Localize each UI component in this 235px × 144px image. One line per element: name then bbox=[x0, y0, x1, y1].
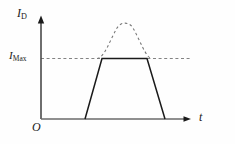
i-max-tick-label: IMax bbox=[9, 50, 27, 61]
origin-label: O bbox=[32, 121, 41, 133]
y-axis-label: ID bbox=[17, 7, 27, 19]
y-axis-arrowhead bbox=[38, 16, 44, 24]
i-max-subscript: Max bbox=[13, 54, 27, 63]
figure-container: ID IMax t O bbox=[0, 0, 235, 144]
y-axis-subscript: D bbox=[21, 12, 27, 21]
unclipped-sine-peak bbox=[97, 23, 152, 58]
x-axis-arrowhead bbox=[184, 116, 192, 122]
clipped-trapezoid-current bbox=[85, 59, 165, 120]
x-axis-label: t bbox=[199, 111, 202, 123]
